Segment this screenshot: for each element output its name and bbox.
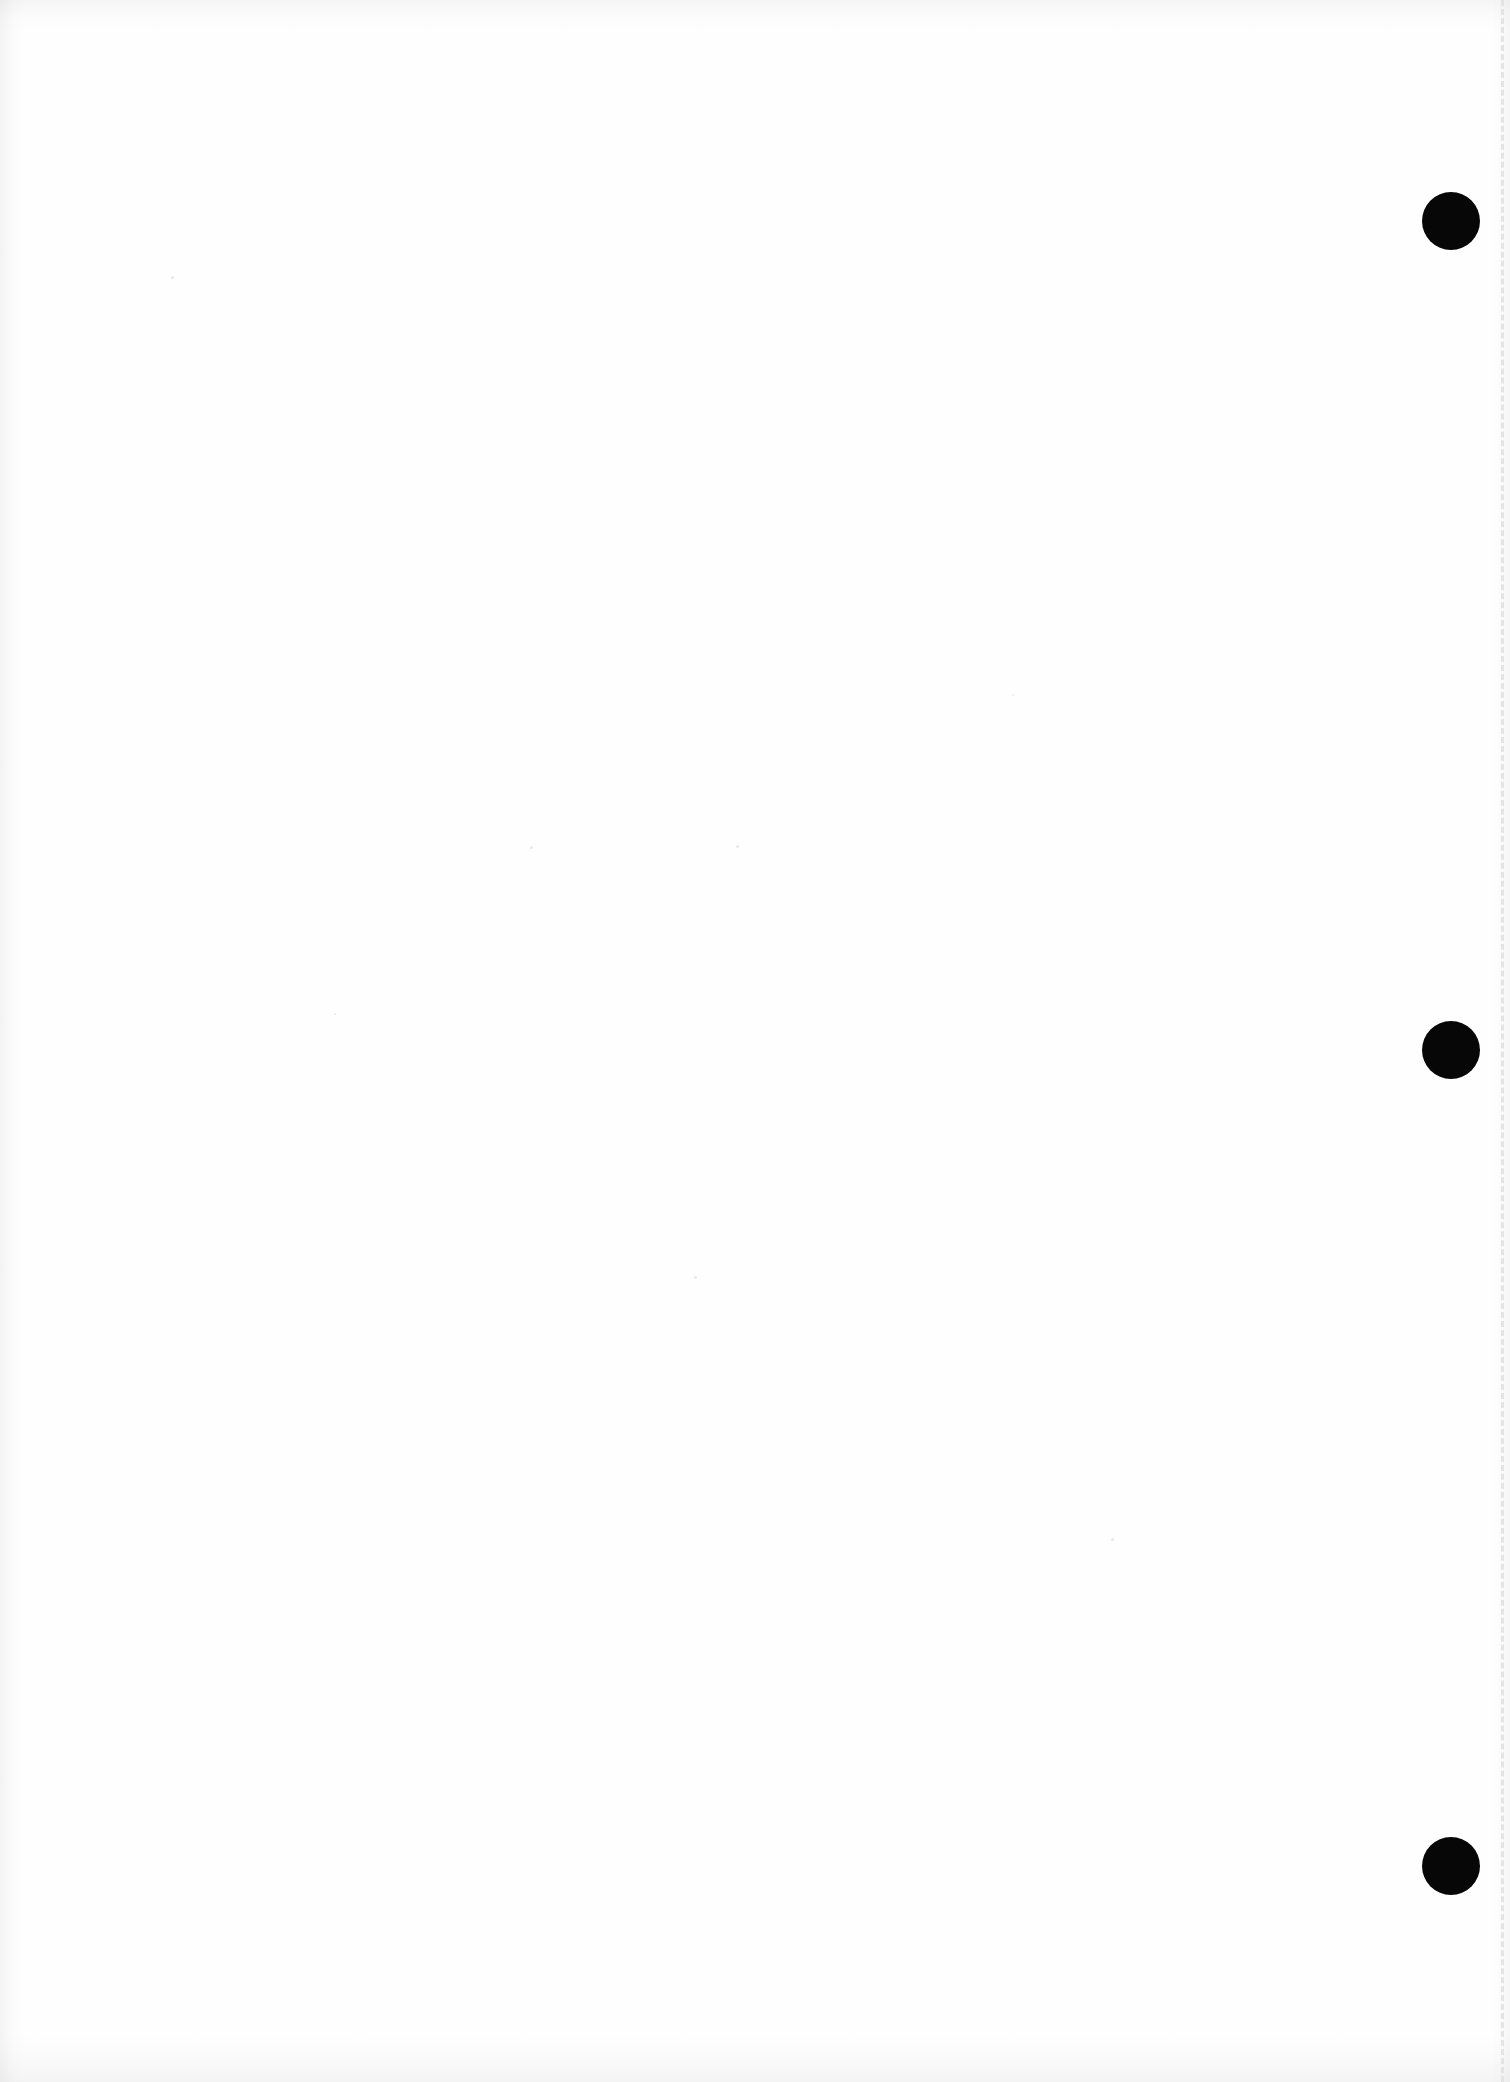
- scan-speck-5: [1111, 1538, 1114, 1541]
- scan-speck-3: [736, 845, 739, 848]
- margin-dot-bottom: [1422, 1837, 1480, 1895]
- margin-dot-middle: [1422, 1021, 1480, 1079]
- margin-dot-top: [1422, 192, 1480, 250]
- scan-speck-1: [171, 276, 174, 279]
- scan-speck-6: [334, 1013, 336, 1015]
- dashed-margin-line: [1501, 0, 1504, 2082]
- page-body-text: [120, 150, 1320, 1930]
- scan-speck-7: [1012, 694, 1014, 696]
- scan-speck-4: [694, 1276, 697, 1279]
- scanned-page: [0, 0, 1510, 2082]
- scan-speck-2: [530, 846, 533, 849]
